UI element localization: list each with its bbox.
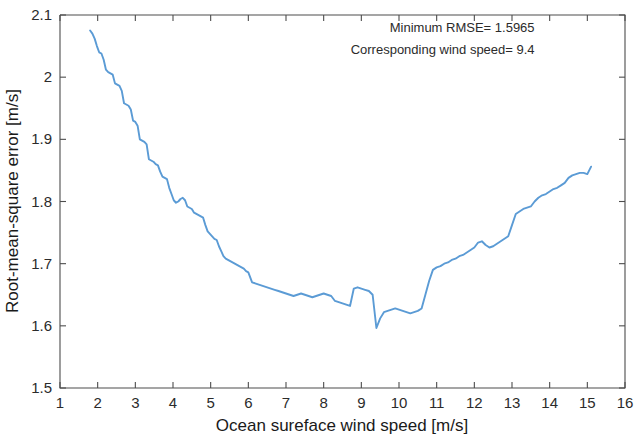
rmse-series-line [90,31,591,328]
chart-figure: 123456789101112131415161.51.61.71.81.922… [0,0,638,438]
y-tick-label: 1.8 [31,193,52,210]
axis-frame [60,15,625,388]
rmse-line-chart: 123456789101112131415161.51.61.71.81.922… [0,0,638,438]
x-axis-title: Ocean sureface wind speed [m/s] [216,416,468,435]
x-tick-label: 10 [391,394,408,411]
y-tick-label: 1.7 [31,255,52,272]
chart-annotations: Minimum RMSE= 1.5965Corresponding wind s… [351,20,535,56]
chart-annotation-text: Corresponding wind speed= 9.4 [351,42,535,57]
x-tick-label: 16 [617,394,634,411]
y-axis-title: Root-mean-square error [m/s] [3,89,22,313]
x-tick-label: 6 [244,394,252,411]
x-tick-label: 1 [56,394,64,411]
x-tick-label: 4 [169,394,177,411]
x-tick-label: 11 [429,394,445,411]
axis-ticks [60,15,625,388]
axis-tick-labels: 123456789101112131415161.51.61.71.81.922… [31,6,633,411]
x-tick-label: 2 [93,394,101,411]
y-tick-label: 1.6 [31,317,52,334]
x-tick-label: 5 [206,394,214,411]
x-tick-label: 9 [357,394,365,411]
x-tick-label: 7 [282,394,290,411]
y-tick-label: 1.5 [31,379,52,396]
x-tick-label: 3 [131,394,139,411]
y-tick-label: 1.9 [31,130,52,147]
x-tick-label: 15 [579,394,596,411]
x-tick-label: 13 [504,394,521,411]
x-tick-label: 8 [319,394,327,411]
y-tick-label: 2.1 [31,6,52,23]
y-tick-label: 2 [44,68,52,85]
x-tick-label: 14 [541,394,558,411]
x-tick-label: 12 [466,394,483,411]
chart-annotation-text: Minimum RMSE= 1.5965 [390,20,535,35]
